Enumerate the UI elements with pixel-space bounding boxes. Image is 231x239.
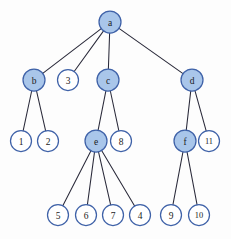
tree-node-label: 11 [205,137,213,146]
tree-edge [74,31,103,72]
tree-edge [195,91,206,131]
tree-node[interactable]: a [99,11,121,33]
tree-node-label: 9 [169,211,174,221]
tree-node-label: 6 [84,211,89,221]
tree-node[interactable]: 3 [58,70,79,91]
tree-node-label: d [190,76,195,86]
tree-edge [102,150,135,206]
tree-edge [110,91,119,131]
tree-node[interactable]: 2 [38,131,59,152]
tree-node-label: e [94,137,98,147]
tree-node[interactable]: 8 [111,131,132,152]
tree-edge [63,151,91,206]
tree-node[interactable]: e [85,130,107,152]
tree-edge [98,152,110,205]
tree-edge [186,91,191,130]
tree-diagram: ab3cd12e8f115674910 [0,0,231,239]
tree-node[interactable]: c [97,69,119,91]
tree-node[interactable]: 11 [199,131,220,152]
tree-node-label: 7 [111,211,116,221]
tree-edge [36,91,45,131]
nodes-layer: ab3cd12e8f115674910 [11,11,220,226]
tree-node[interactable]: 5 [48,205,69,226]
tree-edge [87,152,94,205]
tree-node-label: 3 [66,76,71,86]
tree-node[interactable]: f [174,130,196,152]
tree-node[interactable]: d [181,69,203,91]
tree-node-label: 2 [46,137,51,147]
tree-node-label: 5 [56,211,61,221]
tree-node-label: 8 [119,137,124,147]
edges-layer [23,28,206,206]
tree-node[interactable]: 1 [11,131,32,152]
tree-edge [173,152,183,205]
tree-edge [108,33,109,69]
tree-node[interactable]: b [23,69,45,91]
tree-edge [119,28,183,73]
tree-node[interactable]: 9 [161,205,182,226]
tree-node-label: 10 [195,211,203,220]
tree-node[interactable]: 6 [76,205,97,226]
tree-svg: ab3cd12e8f115674910 [0,0,231,239]
tree-node[interactable]: 4 [130,205,151,226]
tree-edge [43,29,102,74]
tree-edge [23,91,32,131]
tree-edge [187,152,197,205]
tree-node-label: b [32,76,37,86]
tree-node-label: 4 [138,211,143,221]
tree-node[interactable]: 7 [103,205,124,226]
tree-node[interactable]: 10 [189,205,210,226]
tree-edge [98,91,106,130]
tree-node-label: c [106,76,110,86]
tree-node-label: 1 [19,137,24,147]
